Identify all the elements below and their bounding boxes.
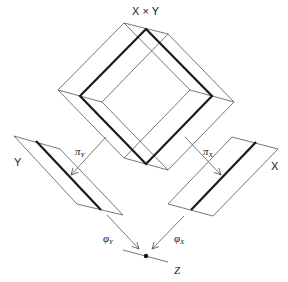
map-x-label: φX [174, 232, 185, 246]
y-thick-line [36, 141, 101, 210]
target-z-label: Z [174, 264, 181, 276]
space-x [168, 137, 278, 216]
space-y [14, 136, 123, 215]
product-space-label: X × Y [132, 5, 160, 17]
commutative-diagram: X × Y Y X πY πX φY φX Z [0, 0, 288, 282]
space-y-label: Y [14, 156, 22, 168]
map-y-label: φY [103, 232, 114, 246]
projection-y-label: πY [75, 145, 86, 159]
space-x-label: X [271, 160, 279, 172]
z-point [144, 254, 148, 258]
projection-x-label: πX [203, 145, 214, 159]
x-thick-line [191, 142, 256, 210]
